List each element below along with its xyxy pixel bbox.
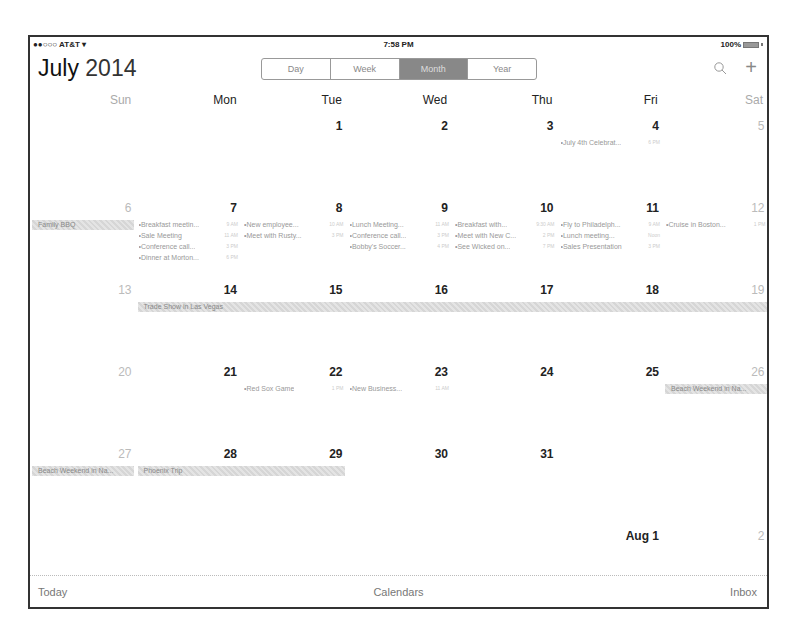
day-cell[interactable]: 17 — [452, 283, 558, 297]
event-item[interactable]: Sale Meeting11 AM — [139, 230, 239, 241]
day-cell[interactable]: 8 — [241, 201, 347, 215]
day-cell[interactable]: 5 — [663, 119, 769, 133]
event-item[interactable]: Conference call...3 PM — [139, 241, 239, 252]
event-time: 9 AM — [649, 219, 660, 230]
event-title: Sale Meeting — [139, 230, 182, 241]
allday-event[interactable]: Phoenix Trip — [138, 466, 345, 476]
inbox-button[interactable]: Inbox — [730, 586, 757, 598]
allday-event[interactable]: Beach Weekend in Na... — [32, 466, 134, 476]
weekday-header: Sun Mon Tue Wed Thu Fri Sat — [30, 93, 767, 111]
event-item[interactable]: Cruise in Boston...1 PM — [666, 219, 766, 230]
day-cell[interactable]: 26 — [663, 365, 769, 379]
event-item[interactable]: Sales Presentation3 PM — [561, 241, 661, 252]
event-time: 10 AM — [329, 219, 343, 230]
event-list: Lunch Meeting...11 AMConference call...3… — [347, 219, 453, 252]
event-time: 1 PM — [332, 383, 344, 394]
tab-week[interactable]: Week — [331, 59, 400, 79]
event-time: 6 PM — [648, 137, 660, 148]
week-row: 13141516171819Trade Show in Las Vegas — [30, 281, 767, 363]
day-cell[interactable]: 16 — [347, 283, 453, 297]
search-icon[interactable] — [713, 61, 727, 75]
add-event-button[interactable]: + — [745, 57, 757, 77]
day-cell[interactable]: 11 — [558, 201, 664, 215]
battery-tip-icon — [761, 43, 763, 46]
day-cell[interactable]: 9 — [347, 201, 453, 215]
event-item[interactable]: Lunch meeting...Noon — [561, 230, 661, 241]
day-cell[interactable]: 27 — [30, 447, 136, 461]
event-item[interactable]: Meet with New C...2 PM — [455, 230, 555, 241]
day-cell[interactable]: 23 — [347, 365, 453, 379]
weekday-thu: Thu — [451, 93, 556, 111]
header: July 2014 Day Week Month Year + — [30, 51, 767, 89]
day-cell[interactable]: 12 — [663, 201, 769, 215]
event-item[interactable]: New employee...10 AM — [244, 219, 344, 230]
event-item[interactable]: Conference call...3 PM — [350, 230, 450, 241]
day-cell[interactable]: 30 — [347, 447, 453, 461]
event-item[interactable]: New Business...11 AM — [350, 383, 450, 394]
event-item[interactable]: Meet with Rusty...3 PM — [244, 230, 344, 241]
day-cell[interactable]: 6 — [30, 201, 136, 215]
event-time: 9:30 AM — [536, 219, 554, 230]
day-cell[interactable]: 25 — [558, 365, 664, 379]
day-cell[interactable]: 28 — [136, 447, 242, 461]
day-cell[interactable]: 29 — [241, 447, 347, 461]
day-cell[interactable]: 22 — [241, 365, 347, 379]
battery-icon — [743, 42, 759, 48]
event-time: 3 PM — [437, 230, 449, 241]
event-list: Cruise in Boston...1 PM — [663, 219, 769, 230]
day-cell[interactable]: 10 — [452, 201, 558, 215]
event-item[interactable]: See Wicked on...7 PM — [455, 241, 555, 252]
event-title: New Business... — [350, 383, 403, 394]
day-cell[interactable]: 24 — [452, 365, 558, 379]
event-item[interactable]: July 4th Celebrat...6 PM — [561, 137, 661, 148]
allday-event[interactable]: Family BBQ — [32, 220, 134, 230]
weekday-sun: Sun — [30, 93, 135, 111]
event-item[interactable]: Dinner at Morton...6 PM — [139, 252, 239, 263]
event-time: 4 PM — [437, 241, 449, 252]
day-cell[interactable]: 4 — [558, 119, 664, 133]
day-cell[interactable]: 13 — [30, 283, 136, 297]
day-cell-aug-1[interactable]: Aug 1 — [558, 529, 664, 543]
day-cell[interactable]: 1 — [241, 119, 347, 133]
event-item[interactable]: Breakfast with...9:30 AM — [455, 219, 555, 230]
event-title: Conference call... — [139, 241, 196, 252]
day-cell[interactable]: 18 — [558, 283, 664, 297]
week-row: 6789101112Family BBQBreakfast meetin...9… — [30, 199, 767, 281]
event-list: Breakfast with...9:30 AMMeet with New C.… — [452, 219, 558, 252]
tab-year[interactable]: Year — [468, 59, 536, 79]
tab-day[interactable]: Day — [262, 59, 331, 79]
calendars-button[interactable]: Calendars — [30, 586, 767, 598]
event-title: New employee... — [244, 219, 299, 230]
day-cell[interactable]: 7 — [136, 201, 242, 215]
day-cell[interactable]: 21 — [136, 365, 242, 379]
event-item[interactable]: Breakfast meetin...9 AM — [139, 219, 239, 230]
day-cell-aug-2[interactable]: 2 — [663, 529, 769, 543]
day-cell[interactable]: 31 — [452, 447, 558, 461]
event-title: July 4th Celebrat... — [561, 137, 622, 148]
week-row: 12345July 4th Celebrat...6 PM — [30, 117, 767, 199]
day-cell[interactable]: 20 — [30, 365, 136, 379]
weekday-wed: Wed — [346, 93, 451, 111]
weekday-sat: Sat — [662, 93, 767, 111]
event-item[interactable]: Red Sox Game1 PM — [244, 383, 344, 394]
event-list: New employee...10 AMMeet with Rusty...3 … — [241, 219, 347, 241]
day-cell[interactable]: 2 — [347, 119, 453, 133]
day-cell[interactable]: 15 — [241, 283, 347, 297]
event-title: Cruise in Boston... — [666, 219, 726, 230]
allday-event[interactable]: Trade Show in Las Vegas — [138, 302, 767, 312]
tab-month[interactable]: Month — [400, 59, 469, 79]
event-title: Sales Presentation — [561, 241, 622, 252]
event-title: See Wicked on... — [455, 241, 510, 252]
weekday-fri: Fri — [556, 93, 661, 111]
event-item[interactable]: Bobby's Soccer...4 PM — [350, 241, 450, 252]
event-item[interactable]: Lunch Meeting...11 AM — [350, 219, 450, 230]
event-title: Breakfast meetin... — [139, 219, 200, 230]
event-time: 11 AM — [224, 230, 238, 241]
day-cell[interactable]: 3 — [452, 119, 558, 133]
month-grid: 12345July 4th Celebrat...6 PM6789101112F… — [30, 117, 767, 587]
event-item[interactable]: Fly to Philadelph...9 AM — [561, 219, 661, 230]
event-time: 11 AM — [435, 219, 449, 230]
day-cell[interactable]: 19 — [663, 283, 769, 297]
allday-event[interactable]: Beach Weekend in Na... — [665, 384, 767, 394]
day-cell[interactable]: 14 — [136, 283, 242, 297]
